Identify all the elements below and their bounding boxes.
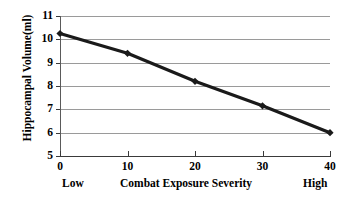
- x-axis-low-label: Low: [62, 178, 84, 190]
- y-axis-title: Hippocampal Volume(ml): [21, 3, 33, 153]
- x-tick-label: 10: [122, 161, 134, 173]
- y-tick-label: 11: [42, 10, 53, 22]
- y-tick-label: 9: [47, 57, 53, 69]
- x-tick-label: 40: [324, 161, 336, 173]
- x-axis-title: Combat Exposure Severity: [120, 178, 252, 190]
- x-tick-mark: [330, 151, 331, 157]
- y-tick-label: 6: [47, 127, 53, 139]
- data-series-line: [60, 16, 330, 156]
- y-tick-label: 8: [47, 80, 53, 92]
- x-tick-label: 30: [257, 161, 269, 173]
- y-tick-label: 5: [47, 150, 53, 162]
- line-chart: Hippocampal Volume(ml) 111098765 0102030…: [0, 0, 352, 199]
- x-tick-label: 0: [57, 161, 63, 173]
- y-tick-label: 7: [47, 104, 53, 116]
- x-axis-high-label: High: [303, 178, 327, 190]
- plot-area: 111098765 010203040: [60, 16, 330, 156]
- y-tick-label: 10: [42, 34, 54, 46]
- data-point-marker: [56, 30, 63, 37]
- x-tick-label: 20: [189, 161, 201, 173]
